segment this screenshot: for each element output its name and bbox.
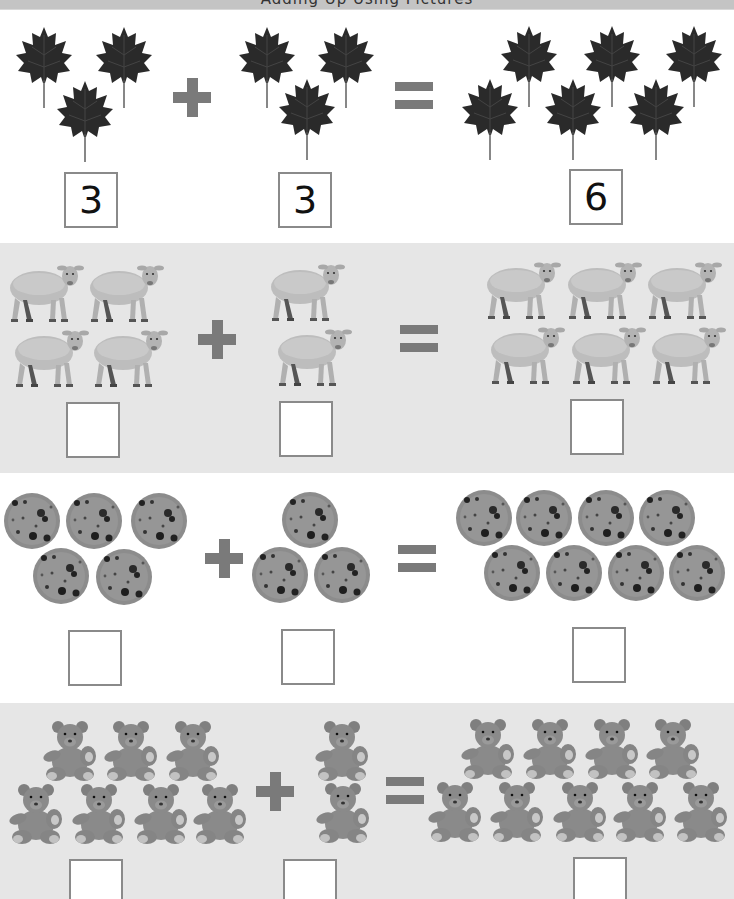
sheep-icon <box>275 326 353 390</box>
cookie-icon <box>515 489 573 547</box>
answer-box-result[interactable] <box>573 857 627 899</box>
teddy-bear-icon <box>312 720 372 782</box>
sheep-icon <box>12 327 90 391</box>
plus-sign <box>198 320 236 359</box>
cookie-icon <box>313 546 371 604</box>
sheep-icon <box>649 324 727 388</box>
left-sheep-group <box>0 243 180 393</box>
sheep-icon <box>569 324 647 388</box>
right-bear-group <box>305 703 375 843</box>
sheep-icon <box>87 262 165 326</box>
right-leaf-group <box>230 11 380 171</box>
cookie-icon <box>577 489 635 547</box>
answer-box-right[interactable] <box>279 401 333 457</box>
teddy-bear-icon <box>6 783 66 845</box>
equation-row-cookies <box>0 473 734 703</box>
teddy-bear-icon <box>643 718 703 780</box>
teddy-bear-icon <box>550 781 610 843</box>
answer-box-left[interactable] <box>69 859 123 899</box>
right-cookie-group <box>245 473 370 613</box>
sheep-icon <box>91 327 169 391</box>
worksheet-title: Adding Up Using Pictures <box>0 0 734 8</box>
equals-sign <box>395 82 433 109</box>
cookie-icon <box>32 547 90 605</box>
sheep-icon <box>565 259 643 323</box>
teddy-bear-icon <box>313 782 373 844</box>
cookie-icon <box>668 544 726 602</box>
left-leaf-group <box>0 11 170 171</box>
teddy-bear-icon <box>163 720 223 782</box>
answer-box-left[interactable] <box>66 402 120 458</box>
answer-box-left[interactable]: 3 <box>64 172 118 228</box>
answer-box-left[interactable] <box>68 630 122 686</box>
equation-row-sheep <box>0 243 734 473</box>
cookie-icon <box>65 492 123 550</box>
leaf-icon <box>460 77 520 162</box>
leaf-icon <box>543 77 603 162</box>
teddy-bear-icon <box>131 783 191 845</box>
answer-box-result[interactable] <box>572 627 626 683</box>
teddy-bear-icon <box>582 718 642 780</box>
result-cookie-group <box>450 473 734 613</box>
cookie-icon <box>130 492 188 550</box>
teddy-bear-icon <box>671 781 731 843</box>
answer-box-right[interactable] <box>283 859 337 899</box>
plus-sign <box>256 772 294 811</box>
equals-sign <box>398 545 436 572</box>
sheep-icon <box>484 259 562 323</box>
result-bear-group <box>420 703 734 843</box>
left-bear-group <box>0 703 255 843</box>
leaf-icon <box>626 77 686 162</box>
answer-box-right[interactable] <box>281 629 335 685</box>
right-sheep-group <box>260 243 370 393</box>
equals-sign <box>400 325 438 352</box>
cookie-icon <box>545 544 603 602</box>
sheep-icon <box>488 324 566 388</box>
teddy-bear-icon <box>69 783 129 845</box>
equation-row-teddy-bears <box>0 703 734 899</box>
plus-sign <box>173 78 211 117</box>
teddy-bear-icon <box>610 781 670 843</box>
result-sheep-group <box>480 243 734 393</box>
leaf-icon <box>277 77 337 162</box>
answer-box-result[interactable]: 6 <box>569 169 623 225</box>
cookie-icon <box>281 491 339 549</box>
cookie-icon <box>251 546 309 604</box>
cookie-icon <box>607 544 665 602</box>
teddy-bear-icon <box>190 783 250 845</box>
cookie-icon <box>638 489 696 547</box>
plus-sign <box>205 539 243 578</box>
left-cookie-group <box>0 473 195 613</box>
cookie-icon <box>3 492 61 550</box>
answer-box-right[interactable]: 3 <box>278 172 332 228</box>
teddy-bear-icon <box>520 718 580 780</box>
teddy-bear-icon <box>458 718 518 780</box>
worksheet-header: Adding Up Using Pictures <box>0 0 734 10</box>
result-leaf-group <box>455 11 734 171</box>
leaf-icon <box>55 79 115 164</box>
cookie-icon <box>455 489 513 547</box>
sheep-icon <box>7 262 85 326</box>
sheep-icon <box>645 259 723 323</box>
answer-box-result[interactable] <box>570 399 624 455</box>
teddy-bear-icon <box>425 781 485 843</box>
equals-sign <box>386 777 424 804</box>
cookie-icon <box>483 544 541 602</box>
cookie-icon <box>95 548 153 606</box>
teddy-bear-icon <box>487 781 547 843</box>
equation-row-leaves: 3 3 6 <box>0 11 734 243</box>
teddy-bear-icon <box>101 720 161 782</box>
teddy-bear-icon <box>40 720 100 782</box>
sheep-icon <box>268 261 346 325</box>
